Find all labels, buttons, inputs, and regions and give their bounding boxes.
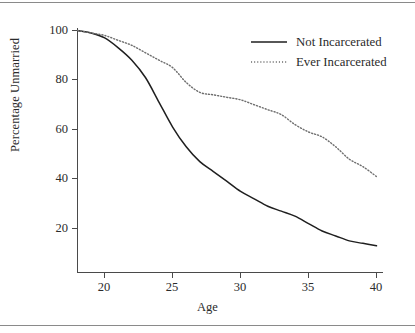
chart-legend: Not Incarcerated Ever Incarcerated (250, 32, 410, 72)
legend-item-not-incarcerated: Not Incarcerated (250, 32, 410, 52)
y-tick-label-80: 80 (40, 72, 68, 87)
y-tick-label-60: 60 (40, 122, 68, 137)
x-tick-label-40: 40 (370, 280, 383, 295)
figure-container: 100 80 60 40 20 20 25 30 35 40 Percentag… (0, 0, 415, 333)
legend-item-ever-incarcerated: Ever Incarcerated (250, 52, 410, 72)
x-axis-label: Age (0, 300, 415, 315)
legend-swatch-dotted-icon (250, 56, 288, 68)
x-tick-label-35: 35 (302, 280, 315, 295)
y-tick-label-20: 20 (40, 221, 68, 236)
x-tick-label-20: 20 (98, 280, 111, 295)
y-axis-label: Percentage Unmarried (8, 38, 23, 152)
legend-label-not-incarcerated: Not Incarcerated (296, 35, 382, 50)
legend-swatch-solid-icon (250, 36, 288, 48)
y-tick-label-100: 100 (40, 23, 68, 38)
x-tick-label-30: 30 (234, 280, 247, 295)
legend-label-ever-incarcerated: Ever Incarcerated (296, 55, 387, 70)
x-tick-label-25: 25 (166, 280, 179, 295)
y-tick-label-40: 40 (40, 171, 68, 186)
